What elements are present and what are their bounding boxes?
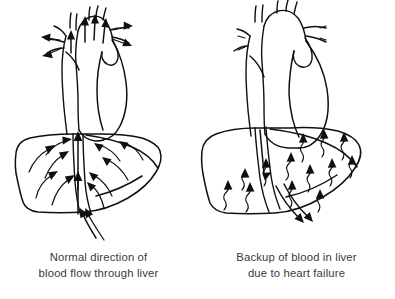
caption-normal-line-2: blood flow through liver [0,266,197,282]
figure-root: Normal direction of blood flow through l… [0,0,395,299]
caption-normal-flow: Normal direction of blood flow through l… [0,250,197,281]
panel-backup-flow: Backup of blood in liver due to heart fa… [198,0,395,299]
caption-backup-line-2: due to heart failure [198,266,395,282]
hepatic-flow-arrows-left [29,136,75,205]
panel-normal-flow: Normal direction of blood flow through l… [0,0,197,299]
hepatic-flow-arrows-right [87,141,143,208]
branch-arrows-right [112,22,133,47]
normal-heart-group [41,6,133,141]
branch-arrows-left [41,34,60,59]
failing-heart-group [234,0,328,148]
portal-inflow-arrows [80,208,104,240]
caption-backup-line-1: Backup of blood in liver [198,250,395,266]
backup-flow-illustration [198,0,395,248]
aortic-outflow-arrows [81,14,110,43]
svc-inflow-arrows [67,30,75,53]
caption-backup-flow: Backup of blood in liver due to heart fa… [198,250,395,281]
normal-liver-group [15,131,161,240]
congested-liver-group [202,127,361,223]
normal-flow-illustration [0,0,197,248]
caption-normal-line-1: Normal direction of [0,250,197,266]
congestion-squiggle-arrows [224,129,357,212]
